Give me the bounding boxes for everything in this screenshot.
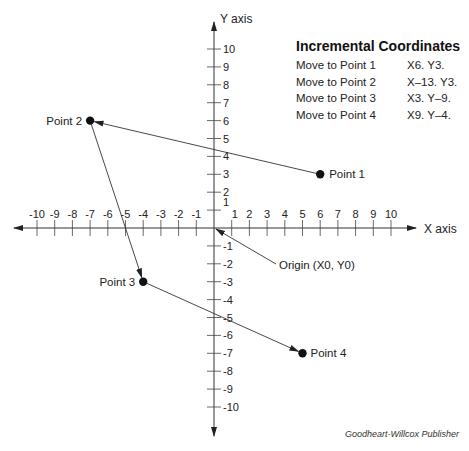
- point-label: Point 2: [46, 115, 82, 127]
- y-tick-label: -7: [223, 347, 233, 359]
- x-tick-label: 8: [353, 208, 359, 220]
- legend-coords: X6. Y3.: [407, 57, 445, 74]
- x-tick-label: 5: [299, 208, 305, 220]
- y-tick-label: 1: [223, 196, 229, 208]
- point-marker: [139, 278, 147, 286]
- x-tick-label: 1: [232, 208, 238, 220]
- y-tick-label: 5: [223, 133, 229, 145]
- legend-coords: X3. Y–9.: [407, 90, 451, 107]
- y-tick-label: -6: [223, 329, 233, 341]
- x-tick-label: -10: [29, 208, 45, 220]
- legend-move: Move to Point 3: [296, 90, 407, 107]
- x-tick-label: 4: [282, 208, 288, 220]
- legend-move: Move to Point 4: [296, 107, 407, 124]
- legend-row: Move to Point 1 X6. Y3.: [296, 57, 460, 74]
- point-label: Point 3: [99, 276, 135, 288]
- y-tick-label: 6: [223, 115, 229, 127]
- legend-coords: X–13. Y3.: [407, 74, 457, 91]
- y-tick-label: -2: [223, 258, 233, 270]
- tool-path: [90, 121, 320, 352]
- origin-label: Origin (X0, Y0): [279, 259, 355, 271]
- x-axis-title: X axis: [424, 222, 457, 236]
- point-label: Point 1: [329, 168, 365, 180]
- point-label: Point 4: [311, 347, 347, 359]
- y-tick-label: -3: [223, 276, 233, 288]
- move-to-point-2: [94, 122, 320, 175]
- x-tick-label: 9: [370, 208, 376, 220]
- x-tick-label: -1: [191, 208, 201, 220]
- y-tick-label: -9: [223, 383, 233, 395]
- x-tick-label: 2: [246, 208, 252, 220]
- x-tick-label: -2: [174, 208, 184, 220]
- y-tick-label: -8: [223, 365, 233, 377]
- legend-row: Move to Point 2 X–13. Y3.: [296, 74, 460, 91]
- incremental-coordinates-legend: Incremental Coordinates Move to Point 1 …: [296, 38, 460, 123]
- x-tick-label: -3: [156, 208, 166, 220]
- x-tick-label: -9: [50, 208, 60, 220]
- move-to-point-3: [90, 121, 142, 278]
- y-tick-label: -4: [223, 294, 233, 306]
- x-tick-label: -6: [103, 208, 113, 220]
- x-tick-label: 7: [335, 208, 341, 220]
- x-tick-label: -4: [138, 208, 148, 220]
- points: Point 1Point 2Point 3Point 4: [46, 115, 365, 360]
- y-tick-label: 8: [223, 79, 229, 91]
- point-marker: [86, 116, 94, 124]
- x-tick-label: 6: [317, 208, 323, 220]
- point-marker: [298, 349, 306, 357]
- legend-row: Move to Point 4 X9. Y–4.: [296, 107, 460, 124]
- legend-move: Move to Point 1: [296, 57, 407, 74]
- move-to-point-4: [143, 282, 298, 352]
- y-tick-label: -1: [223, 240, 233, 252]
- legend-coords: X9. Y–4.: [407, 107, 451, 124]
- y-tick-label: -10: [223, 401, 239, 413]
- y-tick-label: 3: [223, 168, 229, 180]
- x-tick-label: -7: [85, 208, 95, 220]
- legend-title: Incremental Coordinates: [296, 38, 460, 54]
- y-tick-label: 10: [223, 43, 235, 55]
- point-marker: [316, 170, 324, 178]
- legend-move: Move to Point 2: [296, 74, 407, 91]
- y-tick-label: 9: [223, 61, 229, 73]
- x-tick-label: -8: [68, 208, 78, 220]
- x-tick-label: 10: [385, 208, 397, 220]
- y-axis-title: Y axis: [220, 12, 252, 26]
- y-tick-label: 7: [223, 97, 229, 109]
- publisher-credit: Goodheart-Willcox Publisher: [345, 429, 459, 439]
- legend-row: Move to Point 3 X3. Y–9.: [296, 90, 460, 107]
- x-tick-label: 3: [264, 208, 270, 220]
